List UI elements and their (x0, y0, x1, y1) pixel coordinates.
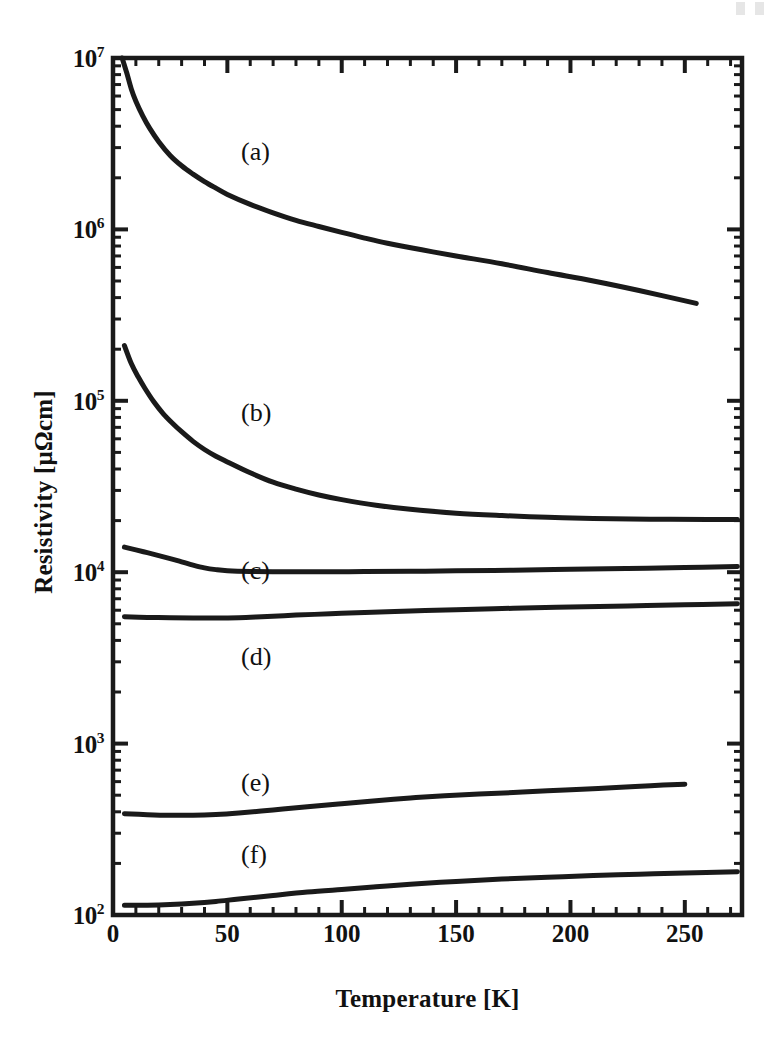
curve-f (124, 872, 737, 906)
data-curves (122, 58, 737, 905)
plot-svg (0, 0, 784, 1056)
curve-label-b: (b) (241, 400, 271, 426)
curve-label-d: (d) (241, 644, 271, 670)
curve-d (124, 604, 737, 618)
curve-label-e: (e) (241, 770, 270, 796)
curve-e (124, 784, 684, 815)
curve-label-c: (c) (241, 558, 270, 584)
curve-a (122, 58, 696, 303)
curve-label-f: (f) (241, 842, 267, 868)
curve-b (124, 346, 737, 520)
curve-c (124, 547, 737, 572)
figure-canvas: 102103104105106107 050100150200250 Resis… (0, 0, 784, 1056)
curve-label-a: (a) (241, 139, 270, 165)
